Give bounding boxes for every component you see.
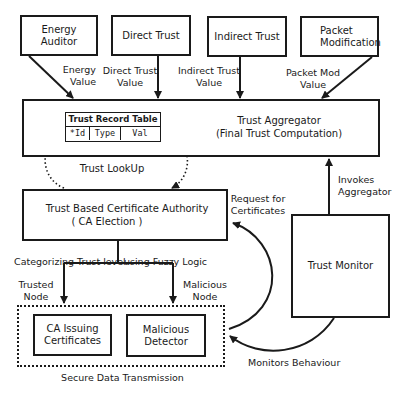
energy-value-label: Energy Value <box>56 64 96 88</box>
trust-monitor-box: Trust Monitor <box>291 214 390 318</box>
direct-trust-value-label: Direct Trust Value <box>100 65 160 89</box>
packet-mod-value-label: Packet Mod Value <box>285 67 341 91</box>
certificate-authority-box: Trust Based Certificate Authority ( CA E… <box>22 189 228 241</box>
trust-record-table-title: Trust Record Table <box>66 113 160 127</box>
trust-lookup-label: Trust LookUp <box>72 163 152 175</box>
malicious-detector-box: Malicious Detector <box>126 314 206 357</box>
indirect-trust-box: Indirect Trust <box>207 16 287 57</box>
malicious-node-label: Malicious Node <box>182 279 228 303</box>
categorizing-right-label: using Fuzzy Logic <box>124 256 207 268</box>
energy-auditor-label: Energy Auditor <box>22 24 96 48</box>
ca-title: Trust Based Certificate Authority <box>34 203 220 215</box>
packet-modification-label: Packet Modification <box>320 25 381 49</box>
trust-record-table: Trust Record Table *Id Type Val <box>65 112 161 142</box>
indirect-trust-label: Indirect Trust <box>214 31 279 43</box>
invokes-aggregator-label: Invokes Aggregator <box>338 174 391 198</box>
packet-modification-box: Packet Modification <box>300 16 379 57</box>
column-id: *Id <box>66 127 90 140</box>
aggregator-subtitle: (Final Trust Computation) <box>209 128 349 140</box>
monitors-behaviour-label: Monitors Behaviour <box>248 357 340 369</box>
trusted-node-label: Trusted Node <box>16 279 56 303</box>
ca-issuing-box: CA Issuing Certificates <box>33 314 112 356</box>
direct-trust-label: Direct Trust <box>122 30 179 42</box>
column-val: Val <box>121 127 159 140</box>
ca-issuing-label: CA Issuing Certificates <box>44 323 101 347</box>
malicious-detector-label: Malicious Detector <box>143 324 189 348</box>
ca-subtitle: ( CA Election ) <box>34 216 180 228</box>
trust-monitor-label: Trust Monitor <box>308 260 373 272</box>
column-type: Type <box>90 127 121 140</box>
request-certificates-label: Request for Certificates <box>230 193 286 217</box>
direct-trust-box: Direct Trust <box>111 15 191 56</box>
secure-data-label: Secure Data Transmission <box>55 372 190 384</box>
aggregator-title: Trust Aggregator <box>214 115 344 127</box>
categorizing-left-label: Categorizing Trust level <box>14 256 126 268</box>
arrow-request-certificates <box>229 223 272 329</box>
energy-auditor-box: Energy Auditor <box>20 15 98 56</box>
trust-record-table-header-row: *Id Type Val <box>66 127 160 140</box>
indirect-trust-value-label: Indirect Trust Value <box>176 65 242 89</box>
arrow-monitors <box>230 318 334 351</box>
